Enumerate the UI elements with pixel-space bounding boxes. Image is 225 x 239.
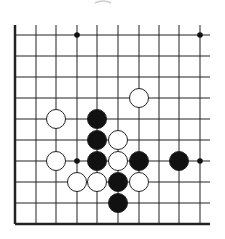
black-stone: [109, 173, 128, 192]
black-stone: [170, 152, 189, 171]
star-point-icon: [197, 32, 203, 38]
white-stone: [130, 173, 149, 192]
black-stone: [130, 152, 149, 171]
white-stone: [47, 152, 66, 171]
star-point-icon: [74, 32, 80, 38]
board-grid: [15, 25, 210, 224]
white-stone: [88, 173, 107, 192]
white-stone: [109, 131, 128, 150]
white-stone: [68, 173, 87, 192]
black-stone: [88, 110, 107, 129]
white-stone: [109, 152, 128, 171]
black-stone: [88, 131, 107, 150]
go-board[interactable]: [0, 0, 225, 239]
black-stone: [88, 152, 107, 171]
star-point-icon: [197, 158, 203, 164]
black-stone: [109, 194, 128, 213]
star-point-icon: [74, 158, 80, 164]
top-arc-remnant: [95, 1, 111, 3]
white-stone: [130, 89, 149, 108]
white-stone: [47, 110, 66, 129]
